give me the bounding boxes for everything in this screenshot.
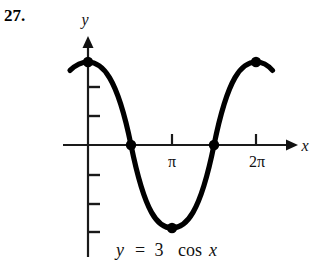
x-axis-label: x	[300, 137, 308, 154]
y-axis-arrowhead	[83, 36, 94, 48]
equation-equals: =	[135, 240, 145, 260]
x-axis	[63, 140, 298, 151]
x-tick-label-pi: π	[168, 153, 176, 170]
point-zero-right	[209, 140, 219, 150]
equation-amplitude: 3	[155, 240, 164, 260]
x-axis-arrowhead	[286, 140, 298, 151]
y-axis-label: y	[79, 11, 89, 29]
x-tick-label-2pi: 2π	[249, 153, 265, 170]
cosine-graph: x y π 2π y = 3 cos x	[0, 0, 321, 266]
equation-variable: x	[208, 240, 217, 260]
point-max-left	[83, 57, 93, 67]
y-axis	[83, 36, 94, 257]
equation-function: cos	[178, 240, 202, 260]
point-max-right	[251, 57, 261, 67]
y-axis-ticks	[88, 87, 100, 232]
point-zero-left	[126, 140, 136, 150]
equation-caption: y = 3 cos x	[114, 240, 217, 260]
figure-container: 27.	[0, 0, 321, 266]
point-minimum	[167, 223, 177, 233]
equation-lhs: y	[114, 240, 124, 260]
